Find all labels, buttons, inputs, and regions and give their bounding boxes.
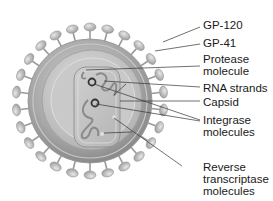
gp120-knob	[117, 160, 131, 173]
gp120-knob	[84, 23, 96, 31]
gp120-knob	[22, 52, 35, 66]
label-integrase-line2: molecules	[203, 126, 255, 138]
gp120-knob	[12, 86, 21, 99]
gp120-knob	[101, 24, 115, 35]
label-rna-strands: RNA strands	[203, 82, 268, 94]
gp120-knob	[153, 120, 165, 134]
gp120-knob	[84, 171, 96, 179]
label-integrase-line1: Integrase	[203, 114, 255, 126]
gp120-knob	[144, 136, 157, 150]
label-gp120: GP-120	[203, 19, 243, 31]
label-rt-line1: Reverse	[203, 161, 269, 173]
gp120-knob	[144, 52, 157, 66]
label-capsid: Capsid	[203, 96, 239, 108]
gp120-knob	[12, 103, 21, 116]
label-protease-line2: molecule	[203, 65, 249, 77]
gp120-knob	[66, 24, 80, 35]
gp120-knob	[15, 68, 27, 82]
leader-gp120	[163, 27, 200, 42]
gp120-knob	[22, 136, 35, 150]
label-rt-line2: transcriptase	[203, 173, 269, 185]
label-protease-line1: Protease	[203, 53, 249, 65]
gp120-knob	[48, 160, 62, 173]
gp120-knob	[66, 168, 80, 179]
gp120-knob	[101, 168, 115, 179]
label-integrase: Integrase molecules	[203, 114, 255, 138]
gp120-knob	[153, 68, 165, 82]
label-protease: Protease molecule	[203, 53, 249, 77]
gp120-knob	[15, 120, 27, 134]
gp120-knob	[117, 29, 131, 42]
leader-gp41	[155, 44, 200, 51]
label-gp41: GP-41	[203, 37, 236, 49]
gp120-knob	[159, 86, 168, 99]
label-reverse-transcriptase: Reverse transcriptase molecules	[203, 161, 269, 197]
label-rt-line3: molecules	[203, 185, 269, 197]
rt-molecule-2	[100, 132, 104, 136]
gp120-knob	[48, 29, 62, 42]
